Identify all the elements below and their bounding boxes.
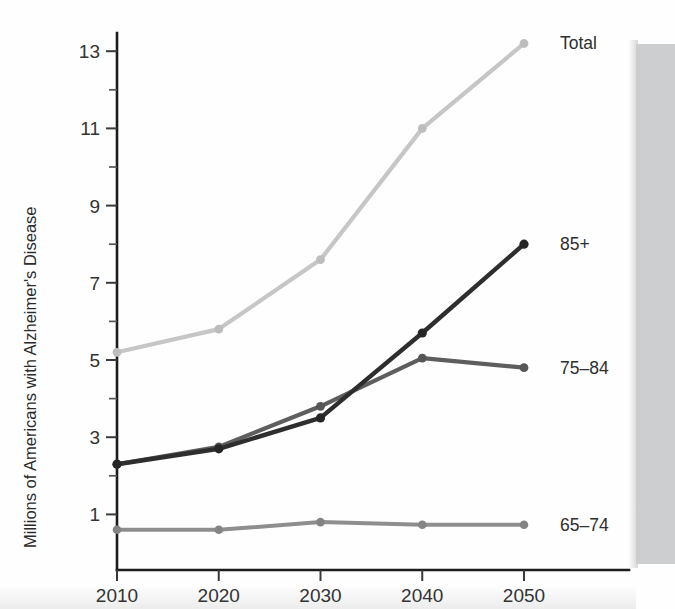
y-axis-ticks — [106, 51, 117, 514]
data-point-85+-2050 — [519, 240, 528, 249]
y-tick-label: 3 — [89, 427, 100, 448]
data-point-85+-2030 — [316, 413, 325, 422]
data-point-65-74-2010 — [113, 526, 122, 535]
data-point-75-84-2050 — [520, 363, 529, 372]
y-tick-label: 9 — [89, 196, 100, 217]
y-tick-label: 1 — [89, 504, 100, 525]
x-axis-tick-labels: 20102020203020402050 — [96, 585, 545, 606]
series-label-85+: 85+ — [560, 234, 590, 254]
data-point-75-84-2040 — [418, 354, 427, 363]
data-point-Total-2040 — [418, 124, 427, 133]
data-point-Total-2030 — [316, 255, 325, 264]
series-inline-labels: Total85+75–8465–74 — [560, 33, 609, 534]
data-point-65-74-2050 — [520, 521, 529, 530]
data-point-65-74-2020 — [215, 526, 224, 535]
x-tick-label: 2030 — [299, 585, 341, 606]
series-label-Total: Total — [560, 33, 597, 53]
y-tick-label: 7 — [89, 273, 100, 294]
y-axis-tick-labels: 135791113 — [79, 41, 100, 525]
series-line-75-84 — [117, 358, 524, 464]
x-tick-label: 2050 — [503, 585, 545, 606]
x-tick-label: 2020 — [198, 585, 240, 606]
data-point-Total-2010 — [113, 348, 122, 357]
y-tick-label: 5 — [89, 350, 100, 371]
y-tick-label: 11 — [80, 118, 100, 139]
series-lines-group — [117, 44, 524, 530]
data-point-Total-2020 — [214, 325, 223, 334]
y-axis-title: Millions of Americans with Alzheimer's D… — [21, 206, 39, 548]
data-point-Total-2050 — [520, 39, 529, 48]
y-tick-label: 13 — [79, 41, 100, 62]
series-line-85+ — [117, 244, 524, 464]
data-point-85+-2040 — [418, 328, 427, 337]
series-label-75-84: 75–84 — [560, 358, 609, 378]
line-chart: Millions of Americans with Alzheimer's D… — [0, 0, 675, 609]
data-point-75-84-2030 — [316, 402, 325, 411]
data-point-85+-2020 — [214, 444, 223, 453]
data-point-65-74-2040 — [418, 521, 427, 530]
series-label-65-74: 65–74 — [560, 515, 609, 535]
x-tick-label: 2040 — [401, 585, 443, 606]
series-markers-group — [112, 39, 528, 534]
data-point-65-74-2030 — [316, 518, 325, 527]
chart-figure: Millions of Americans with Alzheimer's D… — [0, 0, 675, 609]
data-point-85+-2010 — [112, 460, 121, 469]
series-line-Total — [117, 44, 524, 353]
x-tick-label: 2010 — [96, 585, 138, 606]
x-axis-ticks — [117, 570, 524, 581]
